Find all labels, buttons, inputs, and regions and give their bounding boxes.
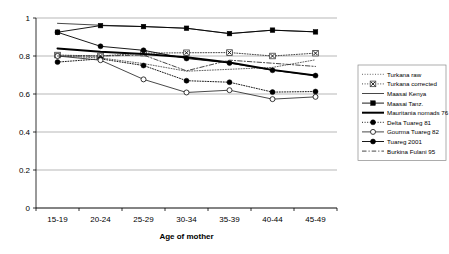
data-point-marker: [270, 28, 275, 33]
x-axis-title: Age of mother: [159, 232, 213, 241]
x-axis-ticks: 15-1920-2425-2930-3435-3940-4445-49: [36, 208, 337, 224]
data-point-marker: [184, 50, 190, 56]
y-axis-ticks: 00.20.40.60.81: [19, 14, 36, 213]
data-point-marker: [141, 63, 146, 68]
legend-label: Tuareg 2001: [387, 138, 422, 145]
y-tick-label: 0.8: [19, 52, 31, 61]
x-tick-label: 15-19: [47, 215, 68, 224]
x-tick-label: 20-24: [90, 215, 111, 224]
x-tick-label: 30-34: [176, 215, 197, 224]
data-point-marker: [313, 89, 318, 94]
data-point-marker: [313, 73, 318, 78]
x-tick-label: 35-39: [219, 215, 240, 224]
data-point-marker: [184, 56, 189, 61]
chart-container: 00.20.40.60.81 15-1920-2425-2930-3435-39…: [0, 0, 449, 254]
line-chart: 00.20.40.60.81 15-1920-2425-2930-3435-39…: [0, 0, 449, 254]
data-point-marker: [371, 101, 376, 106]
data-point-marker: [55, 30, 60, 35]
legend-label: Delta Tuareg 81: [387, 119, 432, 126]
x-tick-label: 45-49: [305, 215, 326, 224]
y-tick-label: 0.2: [19, 166, 31, 175]
data-point-marker: [141, 24, 146, 29]
data-point-marker: [270, 90, 275, 95]
data-point-marker: [371, 129, 376, 134]
legend-label: Maasai Kenya: [387, 90, 427, 97]
data-point-marker: [98, 23, 103, 28]
legend-label: Mauritania nomads 76: [387, 109, 449, 116]
legend-label: Turkana raw: [387, 71, 422, 78]
data-point-marker: [371, 139, 376, 144]
data-point-marker: [371, 120, 376, 125]
data-point-marker: [141, 77, 146, 82]
data-point-marker: [370, 81, 376, 87]
x-tick-label: 25-29: [133, 215, 154, 224]
series-layer: [55, 23, 319, 101]
data-point-marker: [270, 97, 275, 102]
data-point-marker: [227, 61, 232, 66]
y-tick-label: 0.4: [19, 128, 31, 137]
data-point-marker: [313, 30, 318, 35]
legend-label: Turkana corrected: [387, 80, 438, 87]
series-delta-tuareg-81: [55, 56, 318, 94]
legend-item-delta-tuareg-81[interactable]: Delta Tuareg 81: [362, 119, 432, 126]
y-tick-label: 0.6: [19, 90, 31, 99]
data-point-marker: [313, 50, 319, 56]
y-tick-label: 1: [26, 14, 31, 23]
data-point-marker: [313, 94, 318, 99]
data-point-marker: [98, 44, 103, 49]
data-point-marker: [227, 88, 232, 93]
data-point-marker: [98, 58, 103, 63]
gridlines: [36, 18, 337, 208]
axis-lines: [36, 18, 337, 208]
data-point-marker: [227, 50, 233, 56]
data-point-marker: [184, 90, 189, 95]
x-tick-label: 40-44: [262, 215, 283, 224]
data-point-marker: [55, 60, 60, 65]
legend-label: Burkina Fulani 95: [387, 148, 436, 155]
data-point-marker: [184, 26, 189, 31]
legend-item-gourma-tuareg-82[interactable]: Gourma Tuareg 82: [362, 128, 439, 135]
legend-label: Maasai Tanz.: [387, 100, 424, 107]
y-tick-label: 0: [26, 204, 31, 213]
chart-legend: Turkana rawTurkana correctedMaasai Kenya…: [358, 65, 449, 160]
data-point-marker: [270, 68, 275, 73]
data-point-marker: [184, 78, 189, 83]
data-point-marker: [227, 80, 232, 85]
data-point-marker: [227, 31, 232, 36]
legend-item-turkana-corrected[interactable]: Turkana corrected: [362, 80, 438, 87]
data-point-marker: [141, 48, 146, 53]
legend-label: Gourma Tuareg 82: [387, 128, 439, 135]
data-point-marker: [270, 53, 276, 59]
